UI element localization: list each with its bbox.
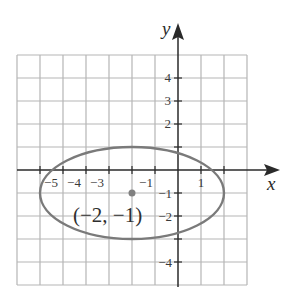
y-tick-label: −1 [158, 186, 172, 201]
x-tick-label: −4 [67, 175, 81, 190]
y-tick-label: −2 [158, 209, 172, 224]
y-tick-label: −4 [158, 255, 172, 270]
x-axis-label: x [266, 173, 276, 194]
x-tick-label: −5 [44, 175, 58, 190]
x-tick-label: −3 [90, 175, 104, 190]
y-tick-label: 2 [165, 116, 172, 131]
y-tick-label: 4 [165, 70, 172, 85]
center-point-label: (−2, −1) [73, 203, 142, 227]
x-tick-label: −1 [139, 175, 153, 190]
y-tick-label: 3 [165, 93, 172, 108]
center-point [129, 190, 136, 197]
x-tick-label: 1 [198, 175, 205, 190]
ellipse-graph: y x −5 −4 −3 −1 1 4 3 2 −1 −2 −4 (−2, −1… [0, 0, 300, 304]
y-axis-label: y [160, 18, 171, 39]
